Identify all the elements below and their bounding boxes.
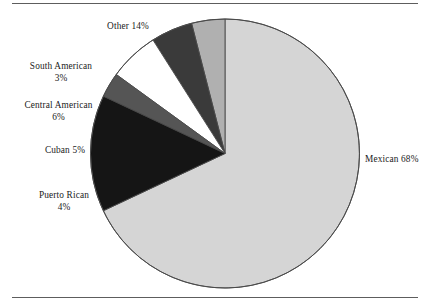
slice-label-puerto-rican: Puerto Rican 4% [22,190,106,213]
divider-line-bottom [12,297,418,298]
slice-label-central-american-line1: Central American [7,100,110,112]
slice-label-other: Other 14% [92,21,164,33]
slice-label-cuban: Cuban 5% [28,145,102,157]
slice-label-south-american-line1: South American [13,61,109,73]
slice-label-puerto-rican-line2: 4% [22,202,106,214]
slice-label-mexican: Mexican 68% [365,154,427,166]
pie-chart-figure: Other 14% South American 3% Central Amer… [0,0,430,307]
slice-label-mexican-line1: Mexican 68% [365,154,427,166]
slice-label-central-american-line2: 6% [7,112,110,124]
slice-label-other-line1: Other 14% [92,21,164,33]
slice-label-south-american-line2: 3% [13,73,109,85]
slice-label-south-american: South American 3% [13,61,109,84]
slice-label-cuban-line1: Cuban 5% [28,145,102,157]
slice-label-central-american: Central American 6% [7,100,110,123]
pie-slice-group [90,19,359,288]
slice-label-puerto-rican-line1: Puerto Rican [22,190,106,202]
